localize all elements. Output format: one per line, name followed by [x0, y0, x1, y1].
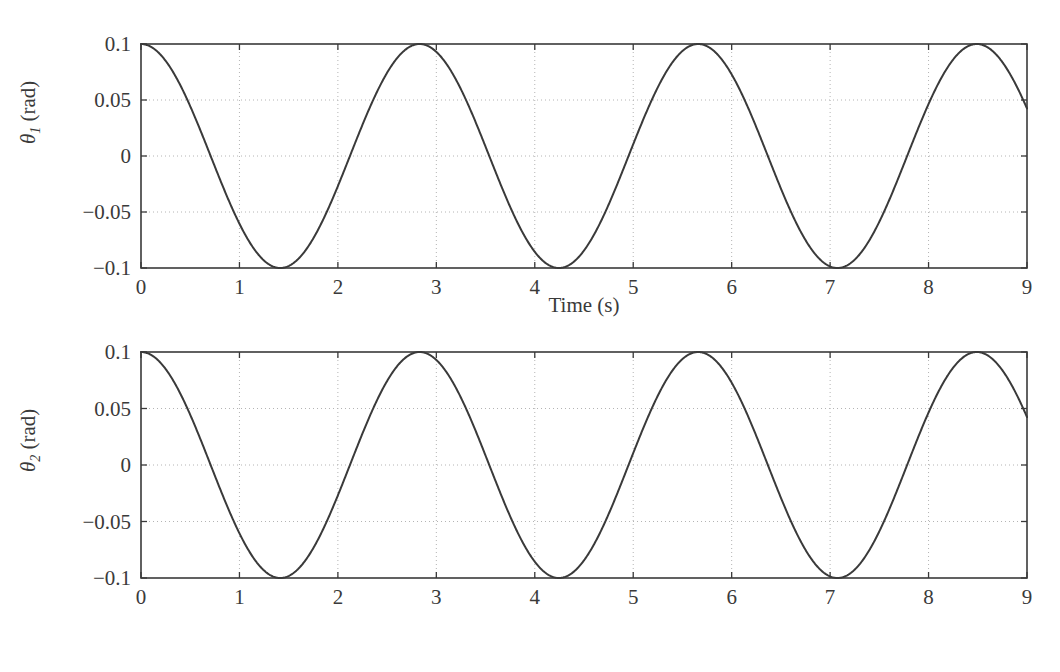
x-tick-label: 2 [333, 585, 344, 609]
x-tick-label: 9 [1022, 585, 1033, 609]
subplot-theta1: 0123456789−0.1−0.0500.050.1 θ1 (rad) Tim… [0, 0, 1060, 336]
y-tick-label: 0.1 [105, 340, 131, 364]
y-axis-unit-2: (rad) [16, 409, 40, 450]
x-tick-label: 3 [431, 585, 442, 609]
y-axis-unit-1: (rad) [16, 81, 40, 122]
x-tick-label: 4 [530, 585, 541, 609]
theta-subscript-1: 1 [28, 127, 43, 134]
plot-area-theta2: 0123456789−0.1−0.0500.050.1 [0, 308, 1060, 672]
y-tick-label: 0 [121, 144, 132, 168]
y-tick-label: 0 [121, 453, 132, 477]
x-tick-label: 6 [726, 585, 737, 609]
plot-area-theta1: 0123456789−0.1−0.0500.050.1 [0, 0, 1060, 336]
y-tick-label: 0.05 [94, 397, 131, 421]
y-tick-label: −0.1 [93, 256, 131, 280]
figure-root: 0123456789−0.1−0.0500.050.1 θ1 (rad) Tim… [0, 0, 1060, 672]
theta-symbol-1: θ [16, 134, 40, 144]
theta-symbol-2: θ [16, 462, 40, 472]
x-tick-label: 1 [234, 585, 245, 609]
x-tick-label: 8 [923, 585, 934, 609]
x-tick-label: 5 [628, 585, 639, 609]
x-tick-label: 0 [136, 585, 147, 609]
subplot-theta2: 0123456789−0.1−0.0500.050.1 θ2 (rad) Tim… [0, 308, 1060, 672]
x-tick-label: 7 [825, 585, 836, 609]
y-tick-label: −0.05 [82, 200, 131, 224]
y-tick-label: −0.05 [82, 510, 131, 534]
y-tick-label: 0.1 [105, 32, 131, 56]
y-tick-label: −0.1 [93, 566, 131, 590]
y-axis-label-theta1: θ1 (rad) [16, 84, 44, 144]
theta-subscript-2: 2 [28, 455, 43, 462]
y-tick-label: 0.05 [94, 88, 131, 112]
y-axis-label-theta2: θ2 (rad) [16, 412, 44, 472]
